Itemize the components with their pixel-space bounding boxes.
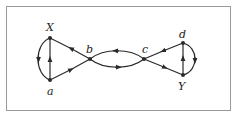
label-d: d	[179, 28, 186, 41]
edge-a-b	[50, 70, 71, 81]
label-X: X	[45, 21, 55, 34]
edge-X-a-arc	[38, 38, 50, 80]
node-a	[48, 78, 52, 82]
graph-canvas: X a b c d Y	[0, 0, 239, 124]
edge-a-b-rest	[71, 59, 90, 70]
edge-b-c-arc	[90, 59, 144, 67]
diagram-root: X a b c d Y	[0, 0, 239, 124]
edge-c-b-arc	[90, 51, 144, 59]
node-c	[142, 57, 146, 61]
label-Y: Y	[178, 80, 187, 93]
edge-c-Y	[144, 59, 165, 68]
label-c: c	[142, 43, 148, 56]
node-b	[88, 57, 92, 61]
edge-c-Y-rest	[165, 68, 183, 76]
edge-b-X-rest	[50, 38, 71, 49]
label-a: a	[47, 85, 54, 98]
edge-d-c	[163, 43, 183, 51]
node-X	[48, 36, 52, 40]
node-Y	[181, 73, 185, 77]
frame	[7, 7, 231, 111]
edge-d-Y-arc	[183, 43, 195, 75]
label-b: b	[86, 43, 93, 56]
node-d	[181, 41, 185, 45]
